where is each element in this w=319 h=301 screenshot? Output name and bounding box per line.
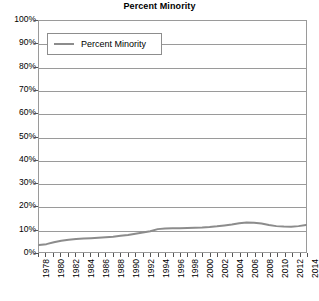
x-tick-label: 1978 bbox=[42, 259, 51, 278]
x-tick-mark bbox=[300, 253, 301, 257]
x-tick-mark bbox=[113, 253, 114, 257]
x-tick-mark bbox=[90, 253, 91, 257]
x-tick-label: 2002 bbox=[221, 259, 230, 278]
x-tick-label: 1984 bbox=[87, 259, 96, 278]
x-tick-mark bbox=[75, 253, 76, 257]
x-tick-mark bbox=[128, 253, 129, 257]
legend-swatch-percent-minority bbox=[54, 43, 74, 45]
x-tick-mark bbox=[98, 253, 99, 257]
y-tick-label: 60% bbox=[0, 108, 36, 117]
x-tick-mark bbox=[307, 253, 308, 257]
x-tick-mark bbox=[158, 253, 159, 257]
legend-label-percent-minority: Percent Minority bbox=[81, 39, 146, 49]
x-tick-mark bbox=[165, 253, 166, 257]
y-tick-label: 90% bbox=[0, 38, 36, 47]
x-tick-mark bbox=[277, 253, 278, 257]
x-tick-mark bbox=[68, 253, 69, 257]
x-tick-label: 1990 bbox=[132, 259, 141, 278]
x-tick-mark bbox=[270, 253, 271, 257]
x-tick-label: 1988 bbox=[117, 259, 126, 278]
x-tick-label: 1980 bbox=[57, 259, 66, 278]
x-tick-label: 2000 bbox=[206, 259, 215, 278]
x-tick-mark bbox=[195, 253, 196, 257]
y-tick-label: 100% bbox=[0, 15, 36, 24]
x-tick-label: 1998 bbox=[191, 259, 200, 278]
x-tick-label: 1986 bbox=[102, 259, 111, 278]
chart-title: Percent Minority bbox=[0, 1, 319, 11]
x-tick-label: 1994 bbox=[162, 259, 171, 278]
x-tick-mark bbox=[292, 253, 293, 257]
x-tick-mark bbox=[225, 253, 226, 257]
y-tick-label: 20% bbox=[0, 201, 36, 210]
x-tick-mark bbox=[105, 253, 106, 257]
y-tick-label: 10% bbox=[0, 225, 36, 234]
x-tick-mark bbox=[120, 253, 121, 257]
x-tick-mark bbox=[135, 253, 136, 257]
x-tick-label: 2010 bbox=[281, 259, 290, 278]
series-line-percent-minority bbox=[39, 21, 306, 252]
y-tick-label: 50% bbox=[0, 132, 36, 141]
x-tick-mark bbox=[232, 253, 233, 257]
x-tick-label: 1992 bbox=[147, 259, 156, 278]
x-tick-mark bbox=[187, 253, 188, 257]
chart-container: Percent Minority 100%90%80%70%60%50%40%3… bbox=[0, 0, 319, 301]
x-tick-label: 2008 bbox=[266, 259, 275, 278]
x-tick-mark bbox=[45, 253, 46, 257]
x-tick-mark bbox=[38, 253, 39, 257]
y-tick-label: 80% bbox=[0, 62, 36, 71]
x-tick-label: 1982 bbox=[72, 259, 81, 278]
y-tick-label: 40% bbox=[0, 155, 36, 164]
x-tick-mark bbox=[240, 253, 241, 257]
x-tick-mark bbox=[255, 253, 256, 257]
x-tick-mark bbox=[83, 253, 84, 257]
y-tick-label: 0% bbox=[0, 248, 36, 257]
x-tick-label: 2004 bbox=[236, 259, 245, 278]
x-tick-mark bbox=[262, 253, 263, 257]
y-tick-label: 70% bbox=[0, 85, 36, 94]
y-tick-label: 30% bbox=[0, 178, 36, 187]
x-tick-mark bbox=[60, 253, 61, 257]
x-tick-mark bbox=[53, 253, 54, 257]
x-tick-mark bbox=[217, 253, 218, 257]
chart-legend: Percent Minority bbox=[47, 33, 162, 55]
x-tick-mark bbox=[173, 253, 174, 257]
x-tick-mark bbox=[202, 253, 203, 257]
x-tick-mark bbox=[180, 253, 181, 257]
x-tick-mark bbox=[150, 253, 151, 257]
x-tick-label: 2012 bbox=[296, 259, 305, 278]
x-tick-label: 1996 bbox=[177, 259, 186, 278]
x-tick-label: 2014 bbox=[311, 259, 319, 278]
x-tick-label: 2006 bbox=[251, 259, 260, 278]
x-tick-mark bbox=[210, 253, 211, 257]
x-tick-mark bbox=[247, 253, 248, 257]
x-tick-mark bbox=[143, 253, 144, 257]
x-tick-mark bbox=[285, 253, 286, 257]
